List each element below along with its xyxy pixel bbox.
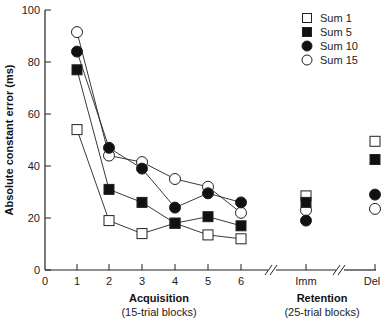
open-square-marker: [104, 216, 114, 226]
open-square-marker: [303, 14, 312, 23]
legend-item-label: Sum 5: [320, 26, 352, 38]
legend-item-label: Sum 15: [320, 54, 358, 66]
legend-item-label: Sum 10: [320, 40, 358, 52]
x-tick-label: 4: [172, 275, 178, 287]
open-square-marker: [203, 230, 213, 240]
open-circle-marker: [72, 27, 83, 38]
legend: Sum 1Sum 5Sum 10Sum 15: [302, 12, 358, 66]
y-ticks: 020406080100: [22, 4, 51, 276]
x-tick-label: Del: [364, 275, 381, 287]
open-circle-marker: [302, 55, 312, 65]
y-tick-label: 80: [28, 56, 40, 68]
legend-item-label: Sum 1: [320, 12, 352, 24]
series-lines: [77, 32, 241, 239]
open-square-marker: [137, 229, 147, 239]
chart: Absolute constant error (ms) 02040608010…: [0, 0, 385, 321]
retention-sublabel: (25-trial blocks): [284, 306, 359, 318]
filled-circle-marker: [203, 188, 214, 199]
open-square-marker: [236, 234, 246, 244]
retention-label: Retention: [297, 292, 348, 304]
filled-square-marker: [236, 221, 246, 231]
filled-square-marker: [370, 155, 380, 165]
filled-circle-marker: [137, 163, 148, 174]
filled-square-marker: [301, 197, 311, 207]
x-ticks: 0123456ImmDel: [42, 264, 380, 287]
filled-circle-marker: [170, 202, 181, 213]
x-tick-label: 6: [238, 275, 244, 287]
filled-square-marker: [303, 28, 312, 37]
series-line: [77, 52, 241, 208]
x-tick-label: 5: [205, 275, 211, 287]
acquisition-sublabel: (15-trial blocks): [121, 306, 196, 318]
acquisition-label: Acquisition: [129, 292, 189, 304]
y-tick-label: 100: [22, 4, 40, 16]
filled-square-marker: [170, 218, 180, 228]
open-square-marker: [72, 125, 82, 135]
filled-circle-marker: [301, 215, 312, 226]
y-tick-label: 20: [28, 212, 40, 224]
filled-square-marker: [104, 184, 114, 194]
y-tick-label: 0: [34, 264, 40, 276]
filled-circle-marker: [370, 189, 381, 200]
open-circle-marker: [370, 203, 381, 214]
y-axis-title: Absolute constant error (ms): [3, 64, 15, 215]
x-tick-label: 3: [139, 275, 145, 287]
series-line: [77, 130, 241, 239]
series-line: [77, 32, 241, 213]
filled-circle-marker: [104, 142, 115, 153]
y-tick-label: 60: [28, 108, 40, 120]
x-tick-label: Imm: [295, 275, 316, 287]
open-square-marker: [370, 136, 380, 146]
x-tick-label: 0: [42, 275, 48, 287]
x-tick-label: 1: [74, 275, 80, 287]
filled-square-marker: [203, 212, 213, 222]
y-tick-label: 40: [28, 160, 40, 172]
x-tick-label: 2: [106, 275, 112, 287]
filled-circle-marker: [236, 197, 247, 208]
open-circle-marker: [170, 174, 181, 185]
open-circle-marker: [236, 207, 247, 218]
series-line: [77, 70, 241, 226]
filled-square-marker: [72, 65, 82, 75]
filled-circle-marker: [302, 41, 312, 51]
filled-circle-marker: [72, 46, 83, 57]
filled-square-marker: [137, 197, 147, 207]
